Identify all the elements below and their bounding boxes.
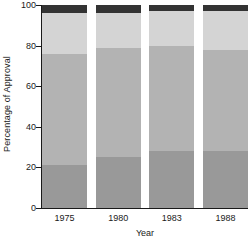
x-axis-line [41,208,248,209]
bar-segment-segment-top[interactable] [149,5,194,11]
plot-area [42,5,248,208]
y-axis-tick-label: 40 [14,122,36,131]
x-axis-label: Year [42,228,248,238]
bar-segment-segment-upper-middle[interactable] [149,11,194,46]
bar-segment-segment-bottom[interactable] [149,151,194,208]
y-axis-tick-label: 60 [14,82,36,91]
bar-segment-segment-bottom[interactable] [96,157,141,208]
bar-segment-segment-lower-middle[interactable] [96,48,141,158]
bar-1980[interactable] [96,5,141,208]
bar-segment-segment-lower-middle[interactable] [203,50,248,152]
bar-segment-segment-bottom[interactable] [42,165,87,208]
y-axis-label-text: Percentage of Approval [2,56,12,152]
bar-1988[interactable] [203,5,248,208]
y-axis-tick-labels: 020406080100 [14,0,36,214]
bar-segment-segment-upper-middle[interactable] [96,13,141,48]
bar-segment-segment-upper-middle[interactable] [42,13,87,54]
stacked-bar-chart: Percentage of Approval 020406080100 1975… [0,0,249,244]
y-axis-label: Percentage of Approval [0,0,14,208]
y-axis-tick-label: 80 [14,41,36,50]
bar-segment-segment-lower-middle[interactable] [149,46,194,152]
bar-segment-segment-top[interactable] [42,5,87,13]
x-axis-tick-label-1983: 1983 [149,211,194,225]
x-axis-tick-labels: 1975198019831988 [42,211,248,225]
bar-1983[interactable] [149,5,194,208]
bar-segment-segment-top[interactable] [203,5,248,11]
bar-segment-segment-upper-middle[interactable] [203,11,248,50]
x-axis-tick-label-1988: 1988 [203,211,248,225]
bar-segment-segment-lower-middle[interactable] [42,54,87,166]
y-axis-tick-label: 0 [14,204,36,213]
x-axis-tick-label-1980: 1980 [96,211,141,225]
bar-1975[interactable] [42,5,87,208]
bar-segment-segment-top[interactable] [96,5,141,13]
bar-segment-segment-bottom[interactable] [203,151,248,208]
y-axis-tick-label: 100 [14,1,36,10]
x-axis-tick-label-1975: 1975 [42,211,87,225]
y-axis-tick-label: 20 [14,163,36,172]
